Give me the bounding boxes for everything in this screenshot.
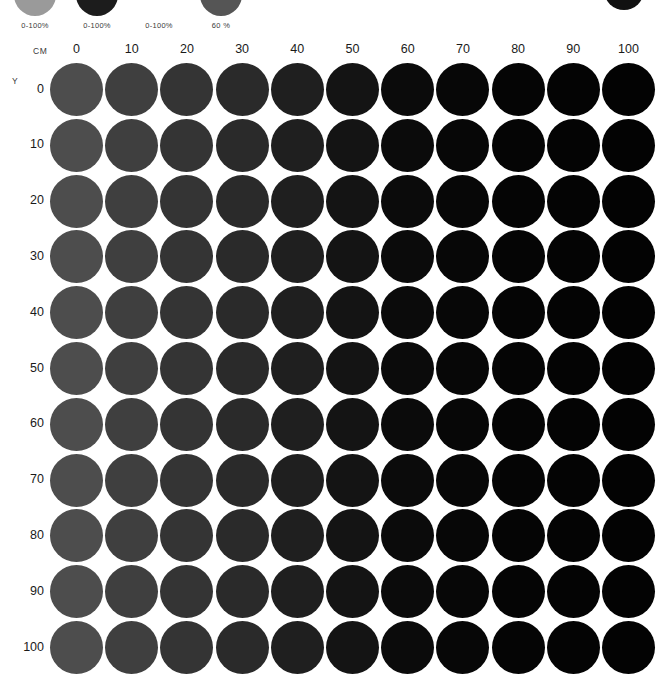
grid-dot [216,398,269,451]
grid-dot [160,63,213,116]
grid-dot [160,509,213,562]
grid-dot [326,119,379,172]
grid-dot [160,286,213,339]
grid-dot [602,398,655,451]
grid-dot [547,621,600,674]
grid-dot [381,286,434,339]
grid-dot [602,454,655,507]
grid-dot [547,454,600,507]
grid-dot [271,509,324,562]
grid-dot [492,509,545,562]
grid-dot [105,342,158,395]
grid-dot [216,230,269,283]
grid-dot [50,398,103,451]
grid-dot [160,175,213,228]
grid-dot [160,621,213,674]
grid-dot [216,621,269,674]
grid-dot [326,398,379,451]
grid-dot [381,565,434,618]
grid-dot [326,63,379,116]
grid-dot [50,565,103,618]
grid-dot [50,230,103,283]
grid-dot [326,286,379,339]
grid-dot [381,454,434,507]
grid-dot [547,286,600,339]
grid-dot [105,398,158,451]
grid-dot [160,119,213,172]
grid-dot [547,230,600,283]
grid-dot [326,621,379,674]
grid-dot [105,565,158,618]
grid-dot [436,119,489,172]
grid-dot [381,63,434,116]
grid-dot [50,509,103,562]
grid-dot [326,565,379,618]
grid-dot [436,509,489,562]
grid-dot [216,509,269,562]
grid-dot [216,119,269,172]
grid-dot [271,565,324,618]
grid-dot [326,342,379,395]
grid-dot [271,286,324,339]
grid-dot [50,621,103,674]
grid-dot [216,286,269,339]
grid-dot [547,63,600,116]
grid-dot [602,342,655,395]
grid-dot [271,230,324,283]
grid-dot [602,119,655,172]
grid-dot [271,621,324,674]
grid-dot [436,398,489,451]
grid-dot [160,565,213,618]
grid-dot [271,175,324,228]
grid-dot [105,230,158,283]
grid-dot [105,454,158,507]
grid-dot [50,286,103,339]
grid-dot [492,175,545,228]
dot-grid [0,0,656,683]
grid-dot [326,230,379,283]
grid-dot [492,230,545,283]
grid-dot [492,63,545,116]
grid-dot [326,454,379,507]
grid-dot [326,175,379,228]
grid-dot [216,454,269,507]
grid-dot [216,175,269,228]
grid-dot [216,63,269,116]
grid-dot [436,454,489,507]
grid-dot [105,175,158,228]
grid-dot [50,454,103,507]
grid-dot [105,621,158,674]
grid-dot [50,63,103,116]
grid-dot [50,119,103,172]
grid-dot [160,454,213,507]
grid-dot [436,342,489,395]
grid-dot [436,621,489,674]
grid-dot [602,175,655,228]
grid-dot [602,286,655,339]
grid-dot [436,63,489,116]
grid-dot [271,398,324,451]
grid-dot [381,621,434,674]
grid-dot [381,175,434,228]
grid-dot [216,565,269,618]
grid-dot [105,119,158,172]
grid-dot [160,230,213,283]
grid-dot [105,509,158,562]
grid-dot [436,286,489,339]
grid-dot [271,119,324,172]
grid-dot [271,63,324,116]
grid-dot [160,342,213,395]
grid-dot [547,565,600,618]
grid-dot [547,342,600,395]
grid-dot [216,342,269,395]
grid-dot [381,342,434,395]
grid-dot [602,565,655,618]
grid-dot [50,175,103,228]
grid-dot [492,565,545,618]
grid-dot [50,342,103,395]
grid-dot [492,621,545,674]
grid-dot [547,119,600,172]
grid-dot [436,230,489,283]
grid-dot [492,342,545,395]
grid-dot [381,230,434,283]
